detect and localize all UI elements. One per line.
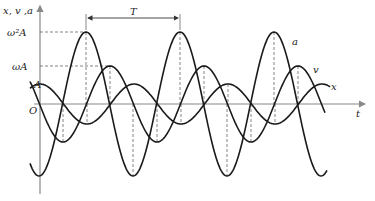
origin-label: O	[29, 105, 37, 116]
motion-graph: x, v ,a t O ω²A ωA A T a v x	[0, 0, 375, 201]
a-curve-label: a	[292, 36, 298, 47]
a-max-label: ω²A	[7, 27, 26, 38]
period-label: T	[130, 6, 138, 17]
x-curve-label: x	[331, 81, 337, 92]
v-max-label: ωA	[12, 61, 27, 72]
v-curve-label: v	[313, 64, 319, 75]
t-axis-label: t	[356, 108, 361, 119]
x-max-label: A	[33, 79, 41, 90]
y-axis-label: x, v ,a	[3, 5, 33, 16]
